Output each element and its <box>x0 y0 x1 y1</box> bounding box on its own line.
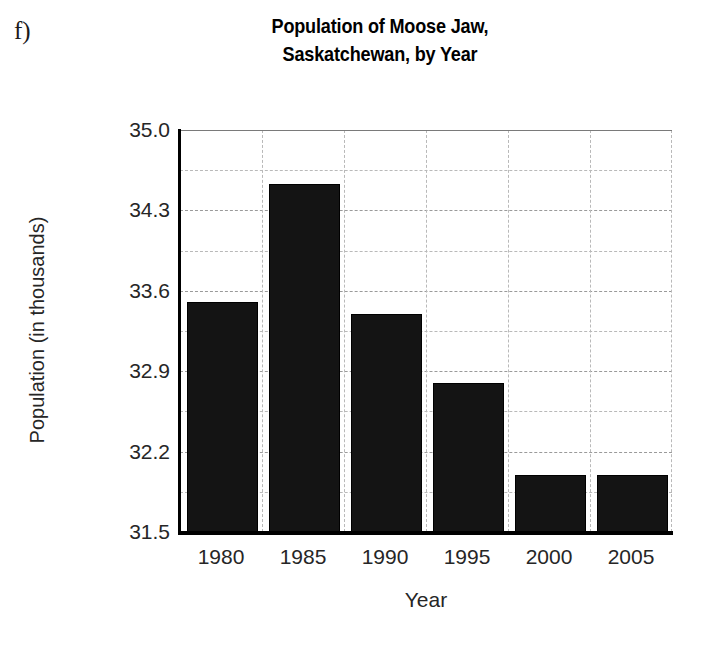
plot-top-rule <box>180 130 672 131</box>
bar <box>351 314 422 532</box>
gridline-vertical <box>262 130 263 532</box>
y-tick-label: 33.6 <box>100 279 170 303</box>
chart-title: Population of Moose Jaw, Saskatchewan, b… <box>182 12 578 67</box>
bar <box>515 475 586 532</box>
x-tick-label: 2000 <box>526 545 573 569</box>
x-tick-label: 1990 <box>362 545 409 569</box>
y-axis-line <box>178 129 181 533</box>
bar <box>269 184 340 532</box>
chart-title-line-1: Population of Moose Jaw, <box>182 12 578 40</box>
y-axis-title: Population (in thousands) <box>26 120 49 540</box>
gridline-vertical <box>671 130 672 532</box>
plot-area <box>180 130 672 532</box>
y-axis-tick-labels: 35.034.333.632.932.231.5 <box>100 0 170 648</box>
x-axis-title: Year <box>180 588 672 612</box>
gridline-vertical <box>508 130 509 532</box>
x-tick-label: 2005 <box>608 545 655 569</box>
x-axis-tick-labels: 198019851990199520002005 <box>180 545 672 577</box>
y-tick-label: 32.2 <box>100 440 170 464</box>
x-tick-label: 1995 <box>444 545 491 569</box>
y-tick-label: 32.9 <box>100 359 170 383</box>
bar <box>597 475 668 532</box>
y-tick-label: 31.5 <box>100 520 170 544</box>
bar <box>187 302 258 532</box>
y-tick-label: 35.0 <box>100 118 170 142</box>
gridline-vertical <box>590 130 591 532</box>
bar <box>433 383 504 532</box>
y-tick-label: 34.3 <box>100 198 170 222</box>
chart-title-line-2: Saskatchewan, by Year <box>182 40 578 68</box>
x-axis-line <box>178 531 673 535</box>
part-label: f) <box>14 18 31 43</box>
x-tick-label: 1985 <box>280 545 327 569</box>
gridline-vertical <box>344 130 345 532</box>
x-tick-label: 1980 <box>198 545 245 569</box>
gridline-vertical <box>426 130 427 532</box>
